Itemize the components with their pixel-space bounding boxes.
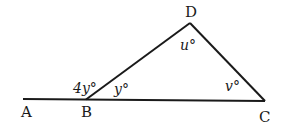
angle-label-exterior-b: 4y° bbox=[72, 80, 97, 96]
point-label-a: A bbox=[20, 103, 32, 121]
triangle-diagram: D A B C 4y° y° u° v° bbox=[0, 0, 282, 130]
angle-label-interior-b: y° bbox=[113, 81, 129, 97]
point-label-d: D bbox=[185, 3, 197, 21]
line-segment-ac bbox=[23, 99, 265, 101]
angle-label-d: u° bbox=[180, 37, 196, 53]
point-label-b: B bbox=[81, 103, 92, 121]
line-segment-bd bbox=[86, 23, 190, 100]
point-label-c: C bbox=[259, 108, 270, 126]
angle-label-c: v° bbox=[225, 78, 240, 94]
